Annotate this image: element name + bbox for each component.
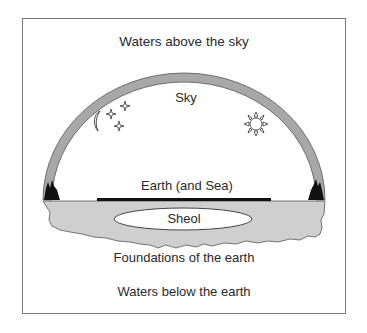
moon-icon [94, 111, 100, 131]
label-earth: Earth (and Sea) [141, 179, 233, 192]
star-icon [114, 121, 124, 131]
star-icon [120, 101, 130, 111]
label-foundations: Foundations of the earth [114, 251, 255, 264]
label-sky: Sky [175, 91, 197, 104]
earth-bar [97, 198, 271, 201]
label-sheol: Sheol [167, 212, 200, 225]
label-waters-above: Waters above the sky [119, 35, 248, 49]
sun-icon [244, 112, 268, 136]
star-icon [106, 109, 116, 119]
label-waters-below: Waters below the earth [117, 285, 250, 298]
